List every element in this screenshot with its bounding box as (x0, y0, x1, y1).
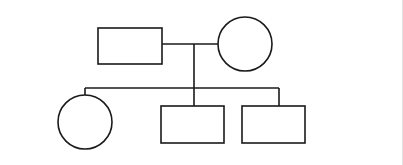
son-square (161, 106, 224, 143)
daughter-circle (58, 95, 112, 149)
son-square (242, 106, 305, 143)
father-square (98, 28, 162, 64)
pedigree-diagram (0, 0, 403, 165)
mother-circle (218, 17, 272, 71)
